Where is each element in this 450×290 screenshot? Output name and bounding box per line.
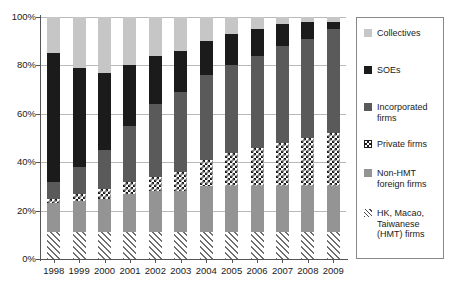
bar-segment-soes	[225, 34, 238, 65]
bar-segment-hmt	[73, 232, 86, 259]
x-tick-mark	[257, 259, 258, 263]
bar-2001	[123, 17, 136, 259]
bar-2004	[200, 17, 213, 259]
bar-segment-private	[301, 138, 314, 186]
bar-segment-incorporated	[47, 182, 60, 199]
plot-area	[41, 17, 346, 259]
x-tick-mark	[79, 259, 80, 263]
legend-swatch-soes-icon	[364, 66, 372, 74]
bar-segment-soes	[251, 29, 264, 56]
legend-item-soes[interactable]: SOEs	[364, 65, 439, 76]
legend-swatch-collectives-icon	[364, 29, 372, 37]
bar-2007	[276, 17, 289, 259]
x-tick-mark	[54, 259, 55, 263]
legend-item-hmt[interactable]: HK, Macao, Taiwanese (HMT) firms	[364, 208, 439, 240]
y-tick-mark	[36, 17, 40, 18]
bar-1998	[47, 17, 60, 259]
bar-segment-hmt	[149, 232, 162, 259]
bar-segment-private	[149, 177, 162, 192]
bar-segment-soes	[149, 56, 162, 104]
bar-segment-incorporated	[98, 150, 111, 189]
bar-segment-private	[123, 182, 136, 194]
legend-swatch-nonhmt-icon	[364, 169, 372, 177]
bar-1999	[73, 17, 86, 259]
chart-legend: CollectivesSOEsIncorporated firmsPrivate…	[356, 17, 444, 259]
bar-segment-nonhmt	[200, 186, 213, 232]
legend-swatch-incorporated-icon	[364, 103, 372, 111]
bar-2006	[251, 17, 264, 259]
x-axis-line	[40, 259, 348, 260]
x-tick-mark	[155, 259, 156, 263]
bar-segment-incorporated	[149, 104, 162, 177]
bar-2003	[174, 17, 187, 259]
bar-segment-incorporated	[123, 126, 136, 182]
bar-segment-incorporated	[200, 75, 213, 160]
bar-segment-incorporated	[73, 167, 86, 194]
bar-2002	[149, 17, 162, 259]
bar-segment-collectives	[276, 17, 289, 24]
bar-segment-nonhmt	[251, 186, 264, 232]
bar-segment-nonhmt	[327, 186, 340, 232]
bar-segment-private	[47, 199, 60, 204]
x-tick-mark	[105, 259, 106, 263]
y-axis-tick-label: 100%	[0, 12, 36, 22]
y-tick-mark	[36, 65, 40, 66]
bar-segment-collectives	[251, 17, 264, 29]
bar-segment-nonhmt	[73, 201, 86, 232]
bar-segment-hmt	[251, 232, 264, 259]
legend-item-nonhmt[interactable]: Non-HMT foreign firms	[364, 168, 439, 189]
bar-segment-hmt	[123, 232, 136, 259]
bar-segment-soes	[200, 41, 213, 75]
bar-segment-private	[98, 189, 111, 199]
bar-2009	[327, 17, 340, 259]
x-tick-mark	[333, 259, 334, 263]
legend-label: Private firms	[377, 139, 427, 150]
bar-segment-soes	[327, 22, 340, 29]
legend-item-incorporated[interactable]: Incorporated firms	[364, 102, 439, 123]
bar-segment-hmt	[225, 232, 238, 259]
bar-segment-nonhmt	[225, 186, 238, 232]
bar-segment-soes	[98, 73, 111, 150]
y-axis-tick-label: 20%	[0, 206, 36, 216]
bar-segment-collectives	[47, 17, 60, 53]
bar-segment-soes	[276, 24, 289, 46]
legend-label: Non-HMT foreign firms	[377, 168, 439, 189]
bar-segment-private	[174, 172, 187, 191]
gridline	[41, 114, 346, 115]
bar-segment-soes	[174, 51, 187, 92]
legend-label: Incorporated firms	[377, 102, 439, 123]
bar-segment-hmt	[47, 232, 60, 259]
bar-segment-soes	[73, 68, 86, 167]
bar-segment-collectives	[174, 17, 187, 51]
bar-segment-private	[200, 160, 213, 187]
bar-segment-incorporated	[251, 56, 264, 148]
y-tick-mark	[36, 114, 40, 115]
y-axis-tick-label: 0%	[0, 254, 36, 264]
gridline	[41, 17, 346, 18]
bar-segment-hmt	[301, 232, 314, 259]
bar-segment-nonhmt	[149, 191, 162, 232]
x-tick-mark	[206, 259, 207, 263]
bar-segment-private	[225, 153, 238, 187]
x-tick-mark	[130, 259, 131, 263]
bar-segment-incorporated	[276, 46, 289, 143]
bar-segment-nonhmt	[276, 186, 289, 232]
legend-item-collectives[interactable]: Collectives	[364, 28, 439, 39]
bar-segment-private	[251, 148, 264, 187]
x-axis-tick-label: 2009	[316, 266, 350, 276]
legend-swatch-hmt-icon	[364, 209, 372, 217]
y-axis-tick-label: 80%	[0, 60, 36, 70]
bar-segment-hmt	[276, 232, 289, 259]
legend-item-private[interactable]: Private firms	[364, 139, 439, 150]
legend-label: Collectives	[377, 28, 421, 39]
bar-segment-soes	[47, 53, 60, 181]
bar-2005	[225, 17, 238, 259]
gridline	[41, 65, 346, 66]
legend-swatch-private-icon	[364, 140, 372, 148]
legend-label: SOEs	[377, 65, 401, 76]
bar-segment-incorporated	[301, 39, 314, 138]
y-tick-mark	[36, 211, 40, 212]
bar-segment-hmt	[98, 232, 111, 259]
bar-segment-private	[276, 143, 289, 187]
bar-2000	[98, 17, 111, 259]
